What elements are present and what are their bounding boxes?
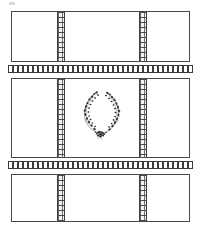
- vband-middle-right: [139, 79, 147, 157]
- vband-middle-left: [57, 79, 65, 157]
- vband-bottom-right: [139, 175, 147, 221]
- smudge-artifact: [9, 2, 15, 5]
- vband-top-right: [139, 12, 147, 61]
- middle-panel: [11, 78, 190, 158]
- hband-lower: [8, 161, 193, 169]
- decorative-panel-figure: [0, 0, 201, 231]
- hband-upper: [8, 65, 193, 73]
- vband-bottom-left: [57, 175, 65, 221]
- vband-top-left: [57, 12, 65, 61]
- top-panel: [11, 11, 190, 62]
- bottom-panel: [11, 174, 190, 222]
